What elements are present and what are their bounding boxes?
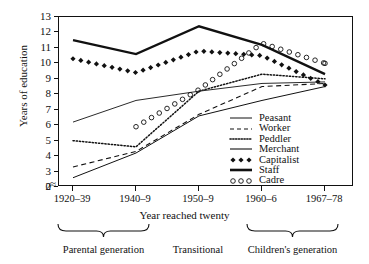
bracket-shape [58,224,149,237]
axis-break-icon: ≈ [50,178,56,190]
y-tick-label: 12 [29,26,51,37]
legend-swatch-icon [228,124,254,134]
y-tick-label: 5 [29,134,51,145]
y-tick-label: 7 [29,103,51,114]
x-tick-mark [135,186,136,191]
y-tick-label: 11 [29,41,51,52]
x-tick-mark [324,186,325,191]
x-tick-label: 1950–9 [182,193,214,204]
x-tick-label: 1960–6 [245,193,277,204]
legend-item-merchant[interactable]: Merchant [228,144,299,154]
legend-swatch-icon [228,113,254,123]
y-tick-label: 6 [29,119,51,130]
bracket-label: Transitional [173,244,223,255]
legend-swatch-icon [228,144,254,154]
legend-swatch-icon [228,176,254,186]
bracket-shape [247,224,338,237]
y-tick-label: 3 [29,165,51,176]
y-tick-label: 8 [29,88,51,99]
legend-item-cadre[interactable]: Cadre [228,175,299,185]
legend-swatch-icon [228,134,254,144]
legend-label: Cadre [259,175,284,185]
generation-brackets [0,222,369,244]
x-tick-label: 1967–78 [306,193,343,204]
x-tick-label: 1940–9 [119,193,151,204]
x-tick-mark [198,186,199,191]
bracket-label: Children's generation [248,244,338,255]
x-tick-mark [72,186,73,191]
series-canvas [59,17,354,187]
plot-area [58,16,353,186]
y-tick-label: 2 [29,181,51,192]
x-tick-label: 1920–39 [54,193,91,204]
x-tick-mark [261,186,262,191]
bracket-label: Parental generation [63,244,144,255]
y-tick-label: 13 [29,11,51,22]
legend-swatch-icon [228,155,254,165]
y-tick-label: 10 [29,57,51,68]
chart-figure: Years of education 02345678910111213 192… [0,0,369,264]
y-tick-label: 4 [29,150,51,161]
x-axis-label: Year reached twenty [0,209,369,221]
legend: PeasantWorkerPeddlerMerchantCapitalistSt… [228,113,299,186]
y-tick-label: 9 [29,72,51,83]
legend-swatch-icon [228,165,254,175]
y-axis-label: Years of education [17,21,29,151]
